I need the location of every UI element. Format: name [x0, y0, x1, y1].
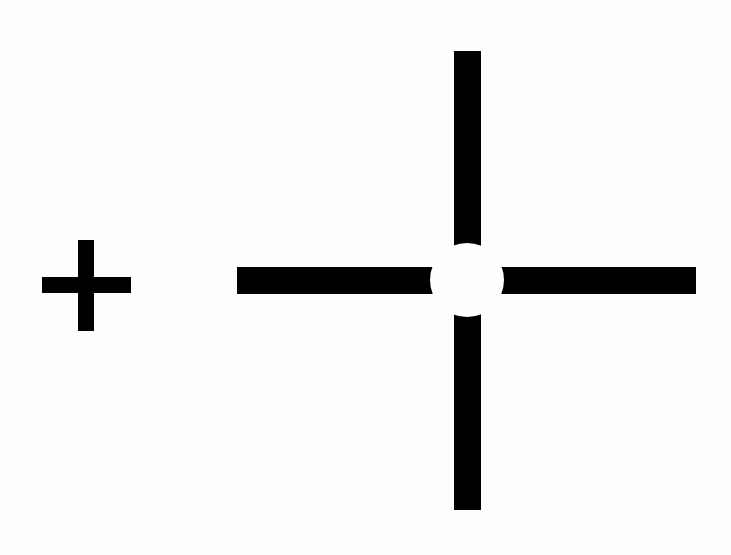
center-gap-circle: [430, 243, 504, 317]
small-plus-vertical-bar: [78, 240, 94, 331]
